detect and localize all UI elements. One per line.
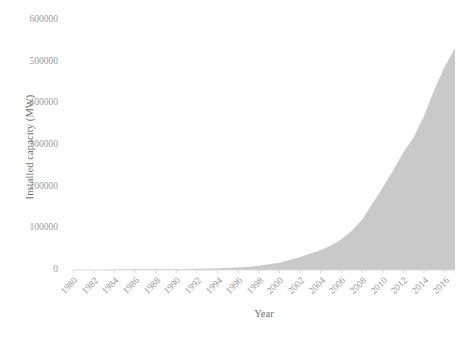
x-axis-title: Year [73, 308, 455, 319]
chart-figure: Installed capacity (MW) 0100000200000300… [0, 0, 471, 340]
x-axis-tick-labels: 1980198219841986198819901992199419961998… [0, 0, 471, 340]
